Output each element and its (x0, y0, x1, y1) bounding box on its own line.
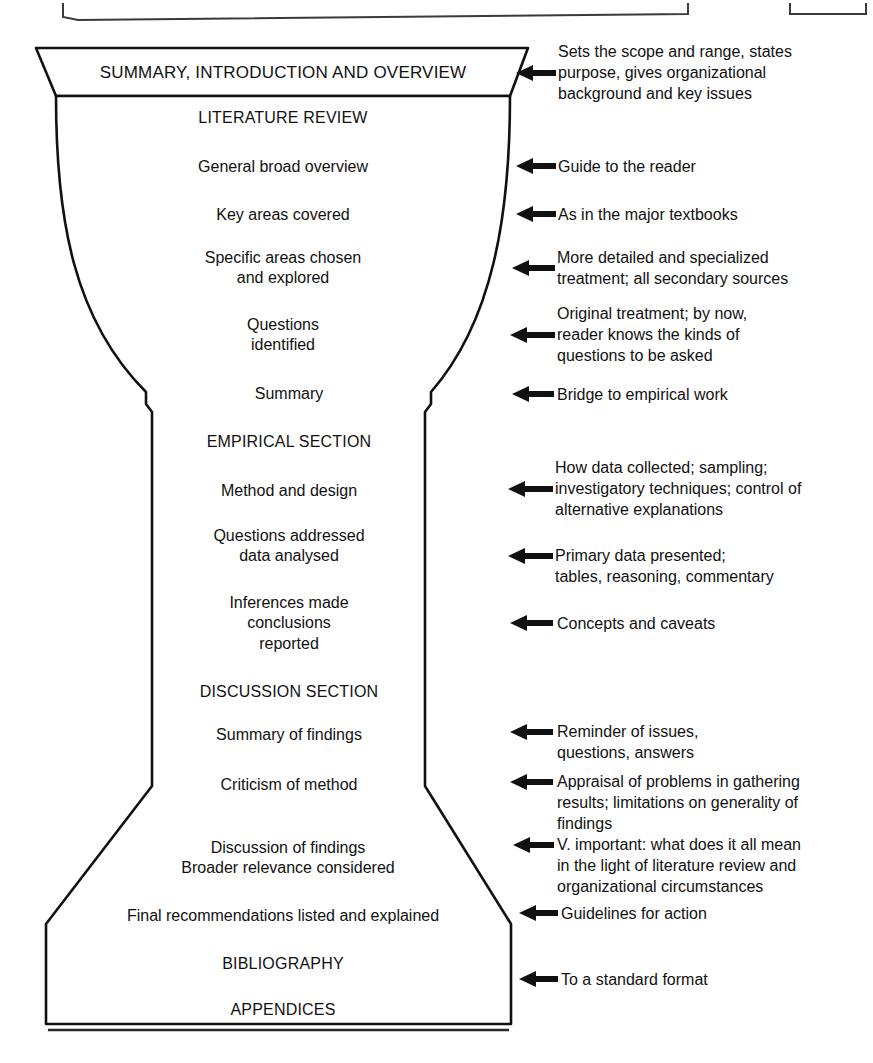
arrow-icon-2 (516, 158, 556, 174)
funnel-section-general-broad-overview: General broad overview (86, 157, 480, 177)
funnel-section-method-and-design: Method and design (146, 481, 432, 501)
annotation-reminder-of-issues: Reminder of issues, questions, answers (557, 722, 873, 764)
annotation-arrows (508, 65, 558, 987)
arrow-icon-13 (519, 905, 558, 921)
funnel-section-literature-review: LITERATURE REVIEW (86, 108, 480, 128)
annotation-original-treatment: Original treatment; by now, reader knows… (557, 304, 873, 366)
arrow-icon-1 (516, 65, 556, 81)
annotation-bridge-to-empirical: Bridge to empirical work (557, 385, 873, 406)
funnel-section-summary: Summary (146, 384, 432, 404)
arrow-icon-7 (508, 481, 553, 497)
page-box-fragment-right (790, 3, 866, 14)
funnel-section-key-areas-covered: Key areas covered (86, 205, 480, 225)
arrow-icon-3 (516, 206, 556, 222)
arrow-icon-9 (510, 615, 553, 631)
arrow-icon-10 (510, 724, 553, 740)
funnel-section-specific-areas-chosen: Specific areas chosen and explored (96, 248, 470, 289)
annotation-standard-format: To a standard format (561, 970, 873, 991)
arrow-icon-5 (510, 327, 555, 343)
arrow-icon-12 (513, 837, 554, 853)
annotation-more-detailed-specialized: More detailed and specialized treatment;… (557, 248, 873, 290)
annotation-guide-to-reader: Guide to the reader (558, 157, 870, 178)
funnel-section-bibliography: BIBLIOGRAPHY (56, 954, 510, 974)
annotation-how-data-collected: How data collected; sampling; investigat… (555, 458, 873, 520)
funnel-section-questions-identified: Questions identified (126, 315, 440, 356)
annotation-guidelines-for-action: Guidelines for action (561, 904, 873, 925)
annotation-primary-data-presented: Primary data presented; tables, reasonin… (555, 546, 873, 588)
funnel-section-inferences-made: Inferences made conclusions reported (146, 593, 432, 654)
annotation-scope-and-range: Sets the scope and range, states purpose… (558, 42, 870, 104)
annotation-major-textbooks: As in the major textbooks (558, 205, 870, 226)
funnel-section-summary-of-findings: Summary of findings (146, 725, 432, 745)
annotation-appraisal-of-problems: Appraisal of problems in gathering resul… (557, 772, 873, 834)
funnel-section-discussion-section: DISCUSSION SECTION (146, 682, 432, 702)
funnel-section-discussion-of-findings: Discussion of findings Broader relevance… (86, 838, 490, 879)
arrow-icon-8 (508, 548, 553, 564)
annotation-concepts-and-caveats: Concepts and caveats (557, 614, 873, 635)
funnel-section-final-recommendations: Final recommendations listed and explain… (56, 906, 510, 926)
arrow-icon-4 (512, 260, 555, 276)
arrow-icon-6 (512, 386, 554, 402)
funnel-section-questions-addressed: Questions addressed data analysed (146, 526, 432, 567)
funnel-header-label: SUMMARY, INTRODUCTION AND OVERVIEW (56, 62, 510, 84)
funnel-section-appendices: APPENDICES (56, 1000, 510, 1020)
funnel-section-empirical-section: EMPIRICAL SECTION (146, 432, 432, 452)
figure-page: SUMMARY, INTRODUCTION AND OVERVIEW LITER… (0, 0, 873, 1063)
funnel-section-criticism-of-method: Criticism of method (146, 775, 432, 795)
annotation-v-important: V. important: what does it all mean in t… (557, 835, 873, 897)
arrow-icon-11 (510, 774, 553, 790)
page-box-fragment-left (63, 3, 688, 20)
arrow-icon-14 (519, 971, 558, 987)
